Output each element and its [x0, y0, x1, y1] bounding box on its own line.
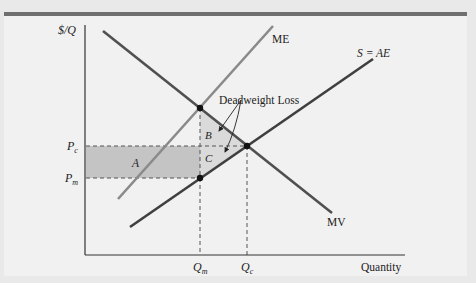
s-ae-label: S = AE	[357, 47, 390, 59]
me-label: ME	[272, 33, 289, 45]
point-me-mv	[197, 105, 203, 111]
point-s-mv	[244, 143, 250, 149]
pc-label: Pc	[66, 139, 78, 155]
pm-label: Pm	[64, 171, 78, 187]
y-axis-label: $/Q	[58, 23, 76, 37]
mv-curve	[103, 31, 332, 213]
region-b-label: B	[205, 129, 212, 141]
mv-label: MV	[327, 216, 346, 228]
qc-label: Qc	[241, 260, 254, 276]
monopsony-diagram: $/Q Quantity ME S = AE MV Deadweight Los…	[0, 0, 476, 283]
region-a-shading	[86, 146, 200, 178]
x-axis-label: Quantity	[361, 261, 401, 274]
region-c-label: C	[205, 152, 213, 164]
qm-label: Qm	[193, 260, 208, 276]
point-s-qm	[197, 175, 203, 181]
region-a-label: A	[131, 157, 140, 169]
dwl-label: Deadweight Loss	[219, 94, 300, 107]
